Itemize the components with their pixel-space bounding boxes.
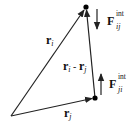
label-force-ji-sup: int [118,72,127,81]
label-force-ij: F [107,14,114,28]
label-force-ji-sub: ji [117,85,122,94]
label-r-j: rj [64,106,72,121]
vector-diagram: ri ri - rj rj F int ij F int ji [0,0,135,132]
label-force-ji: F [109,77,116,91]
label-r-diff: ri - rj [63,59,87,74]
label-force-ij-sub: ij [116,22,121,31]
vector-r-diff [87,10,96,98]
particle-i [83,4,88,9]
vector-r-j [11,99,92,117]
label-r-i: ri [46,33,54,48]
label-force-ij-sup: int [116,9,125,18]
particle-j [92,95,97,100]
